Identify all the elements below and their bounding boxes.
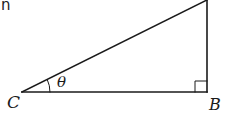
angle-arc [47,80,50,92]
vertex-label-b: B [209,97,221,113]
triangle-figure [0,0,225,123]
right-angle-marker [195,81,207,92]
vertex-label-c: C [7,94,20,111]
angle-label-theta: θ [57,75,66,90]
hypotenuse [22,0,207,92]
